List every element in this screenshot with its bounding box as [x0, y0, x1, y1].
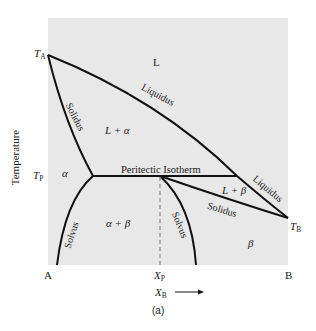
peritectic-isotherm-label: Peritectic Isotherm [121, 165, 201, 176]
region-l-beta: L + β [222, 185, 246, 196]
x-axis-right-end: B [285, 270, 292, 281]
x-axis-arrow-icon [198, 290, 204, 295]
panel-label: (a) [152, 306, 164, 316]
ta-label: TA [34, 48, 46, 61]
region-alpha: α [62, 168, 68, 179]
y-axis-label: Temperature [10, 130, 21, 185]
x-axis-label: XB [155, 287, 167, 300]
region-beta: β [248, 238, 253, 249]
region-alpha-beta: α + β [106, 218, 130, 229]
tp-label: TP [33, 170, 43, 183]
region-l-alpha: L + α [105, 125, 130, 136]
xp-label: XP [154, 270, 165, 283]
plot-area [48, 18, 288, 265]
region-liquid: L [153, 57, 160, 68]
tb-label: TB [290, 221, 301, 234]
x-axis-left-end: A [44, 270, 52, 281]
